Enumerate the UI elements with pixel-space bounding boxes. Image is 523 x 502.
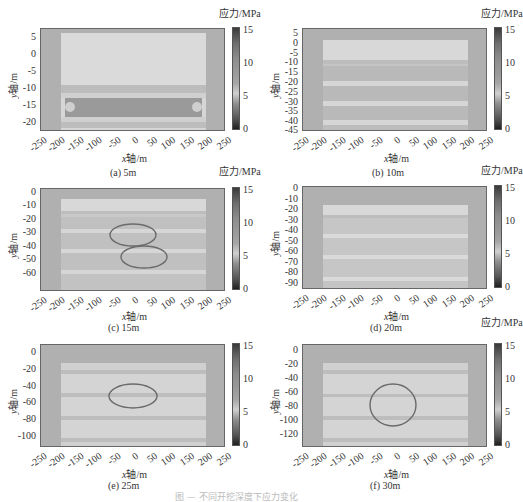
x-tick: -100 [82,450,103,470]
colorbar [494,27,502,130]
y-tick: -120 [268,429,298,439]
colorbar-title: 应力/MPa [481,314,523,329]
x-tick: 150 [178,134,197,152]
x-tick: 100 [159,450,178,468]
y-tick: -20 [6,214,36,224]
x-tick: -50 [105,450,122,467]
y-tick: -20 [6,364,36,374]
colorbar-tick: 0 [505,440,510,450]
y-axis-label: y轴/m [267,73,282,98]
x-tick: 250 [477,292,496,310]
x-tick: -50 [105,134,122,151]
colorbar-title: 应力/MPa [219,5,261,20]
x-axis-label: x轴/m [384,466,409,481]
x-tick: 50 [407,292,422,307]
x-tick: 50 [407,134,422,149]
colorbar-title: 应力/MPa [219,163,261,178]
x-tick: -100 [82,294,103,314]
x-tick: 250 [477,450,496,468]
panel-caption: (f) 30m [370,480,400,491]
heatmap-plot [40,188,225,291]
x-tick: 200 [196,450,215,468]
y-tick: -90 [268,278,298,288]
heatmap-plot [40,344,225,447]
y-tick: -45 [268,125,298,135]
y-tick: -15 [6,100,36,110]
y-tick: 0 [268,183,298,193]
y-tick: 0 [6,187,36,197]
y-tick: 5 [6,32,36,42]
colorbar-tick: 10 [505,374,515,384]
colorbar [494,343,502,446]
colorbar-tick: 10 [243,374,253,384]
x-tick: -50 [367,134,384,151]
y-tick: 0 [268,345,298,355]
panel-c: 应力/MPa 15 10 5 0 0 -10 -20 -30 -40 -50 -… [0,158,260,318]
colorbar-tick: 5 [243,251,248,261]
y-axis-label: y轴/m [5,233,20,258]
colorbar-tick: 5 [243,407,248,417]
y-axis-label: y轴/m [5,389,20,414]
x-tick: 150 [440,292,459,310]
heatmap-plot [40,28,225,131]
y-tick: -10 [6,200,36,210]
colorbar-tick: 10 [505,216,515,226]
y-axis-label: y轴/m [267,389,282,414]
x-tick: 0 [130,450,140,462]
colorbar-tick: 0 [243,124,248,134]
colorbar-tick: 0 [243,284,248,294]
colorbar-tick: 5 [505,91,510,101]
panel-f: 应力/MPa 15 10 5 0 0 -20 -40 -60 -80 -100 … [262,314,522,474]
colorbar-tick: 15 [505,183,515,193]
y-axis-label: y轴/m [5,73,20,98]
colorbar-tick: 15 [505,25,515,35]
x-tick: 200 [458,292,477,310]
x-tick: 0 [130,294,140,306]
x-tick: -100 [344,450,365,470]
colorbar-tick: 10 [243,218,253,228]
colorbar-tick: 10 [505,58,515,68]
x-tick: 0 [392,450,402,462]
x-tick: 100 [421,292,440,310]
colorbar [494,185,502,288]
x-tick: 200 [196,294,215,312]
colorbar-tick: 5 [243,91,248,101]
colorbar-title: 应力/MPa [481,5,523,20]
panel-a: 应力/MPa 15 10 5 0 5 0 -5 -10 -15 -20 y轴/m… [0,0,260,160]
panel-b: 应力/MPa 15 10 5 0 5 0 -5 -10 -15 -20 -25 … [262,0,522,160]
colorbar-tick: 5 [505,407,510,417]
colorbar-tick: 0 [243,440,248,450]
y-tick: -80 [268,267,298,277]
colorbar-tick: 15 [505,341,515,351]
colorbar-tick: 0 [505,282,510,292]
x-tick: 150 [440,450,459,468]
y-tick: -20 [268,359,298,369]
colorbar-tick: 0 [505,124,510,134]
x-tick: -100 [344,134,365,154]
x-tick: 150 [440,134,459,152]
x-tick: 50 [145,450,160,465]
colorbar [232,27,240,130]
panel-caption: (e) 25m [108,480,139,491]
colorbar [232,343,240,446]
x-tick: 50 [145,294,160,309]
x-tick: 100 [421,450,440,468]
x-tick: 0 [130,134,140,146]
colorbar-tick: 5 [505,249,510,259]
y-tick: -100 [268,415,298,425]
heatmap-plot [302,28,487,131]
colorbar-tick: 15 [243,341,253,351]
x-tick: -100 [82,134,103,154]
colorbar-tick: 15 [243,185,253,195]
x-tick: 250 [215,134,234,152]
x-tick: 200 [458,134,477,152]
x-tick: -50 [367,450,384,467]
x-tick: 200 [458,450,477,468]
x-axis-label: x轴/m [122,466,147,481]
y-tick: -20 [6,117,36,127]
x-tick: 150 [178,294,197,312]
colorbar [232,187,240,290]
x-tick: 50 [145,134,160,149]
x-tick: -100 [344,292,365,312]
y-tick: 0 [6,347,36,357]
